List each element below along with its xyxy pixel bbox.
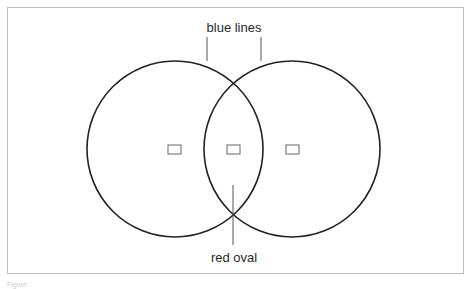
- right-box: [286, 145, 299, 154]
- label-blue-lines: blue lines: [207, 20, 262, 35]
- label-red-oval: red oval: [211, 250, 257, 265]
- venn-diagram: [0, 0, 472, 289]
- middle-box: [227, 145, 240, 154]
- left-box: [168, 145, 181, 154]
- figure-caption: Figure: [7, 281, 27, 288]
